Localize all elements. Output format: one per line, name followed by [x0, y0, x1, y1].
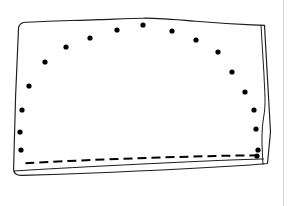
- marker-dot: [229, 69, 234, 74]
- marker-dot: [242, 89, 247, 94]
- marker-dot: [140, 22, 145, 27]
- marker-dot: [114, 27, 119, 32]
- marker-dot: [18, 147, 23, 152]
- marker-dot: [251, 107, 256, 112]
- marker-dot: [17, 129, 22, 134]
- marker-dot: [63, 44, 68, 49]
- marker-dot: [254, 153, 259, 158]
- line-drawing-canvas: [0, 0, 289, 206]
- marker-dot: [87, 35, 92, 40]
- fabric-panel-outline: [14, 18, 271, 175]
- marker-dot: [253, 126, 258, 131]
- marker-dot: [255, 147, 260, 152]
- marker-dot: [19, 107, 24, 112]
- marker-dot: [169, 28, 174, 33]
- marker-dot: [193, 37, 198, 42]
- marker-dot: [26, 83, 31, 88]
- marker-dot: [42, 59, 47, 64]
- marker-dot: [215, 49, 220, 54]
- figure-root: Fabric panel outline with dotted placeme…: [0, 0, 289, 206]
